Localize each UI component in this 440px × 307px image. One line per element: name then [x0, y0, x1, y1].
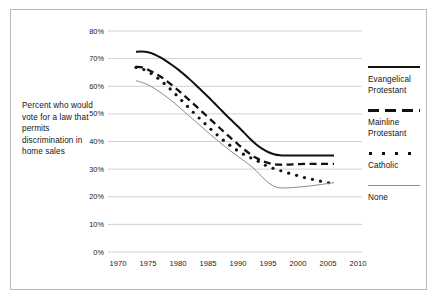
legend-swatch-catholic	[368, 148, 420, 158]
series-line-evangelical-protestant	[136, 51, 334, 155]
series-marker-catholic	[242, 153, 245, 156]
series-marker-catholic	[134, 66, 137, 69]
y-tick-label: 50%	[89, 109, 104, 118]
y-tick-label: 70%	[89, 54, 104, 63]
series-marker-catholic	[149, 72, 152, 75]
series-marker-catholic	[169, 87, 172, 90]
series-line-none	[136, 81, 334, 188]
x-tick-label: 1990	[230, 259, 247, 268]
series-marker-catholic	[228, 144, 231, 147]
chart-figure: Percent who would vote for a law that pe…	[0, 0, 440, 307]
series-marker-catholic	[271, 167, 274, 170]
series-marker-catholic	[319, 180, 322, 183]
y-tick-label: 20%	[89, 192, 104, 201]
chart-legend: Evangelical Protestant Mainline Protesta…	[368, 62, 426, 212]
series-marker-catholic	[257, 160, 260, 163]
x-tick-label: 2000	[290, 259, 307, 268]
series-marker-catholic	[192, 111, 195, 114]
legend-label-catholic: Catholic	[368, 160, 426, 171]
legend-entry-mainline: Mainline Protestant	[368, 105, 426, 139]
series-marker-catholic	[174, 93, 177, 96]
series-marker-catholic	[311, 178, 314, 181]
y-tick-label: 30%	[89, 165, 104, 174]
series-lines	[134, 51, 334, 188]
x-tick-labels: 197019751980198519901995200020052010	[110, 259, 367, 268]
legend-swatch-mainline	[368, 105, 420, 115]
x-tick-label: 1995	[260, 259, 277, 268]
series-marker-catholic	[264, 164, 267, 167]
series-marker-catholic	[222, 139, 225, 142]
series-marker-catholic	[156, 77, 159, 80]
series-marker-catholic	[295, 174, 298, 177]
series-marker-catholic	[186, 105, 189, 108]
series-marker-catholic	[235, 148, 238, 151]
y-tick-label: 0%	[93, 248, 104, 257]
x-tick-label: 2010	[350, 259, 367, 268]
series-marker-catholic	[303, 176, 306, 179]
x-tick-label: 1980	[170, 259, 187, 268]
y-tick-label: 60%	[89, 82, 104, 91]
y-tick-labels: 0%10%20%30%40%50%60%70%80%	[89, 27, 104, 257]
y-tick-label: 40%	[89, 137, 104, 146]
gridlines	[108, 31, 362, 252]
series-marker-catholic	[209, 128, 212, 131]
series-marker-catholic	[163, 82, 166, 85]
legend-entry-none: None	[368, 180, 426, 203]
legend-entry-catholic: Catholic	[368, 148, 426, 171]
x-tick-label: 1975	[140, 259, 157, 268]
x-tick-label: 1970	[110, 259, 127, 268]
legend-label-mainline: Mainline Protestant	[368, 117, 426, 139]
legend-label-evangelical: Evangelical Protestant	[368, 74, 426, 96]
y-tick-label: 80%	[89, 27, 104, 36]
series-marker-catholic	[215, 133, 218, 136]
series-marker-catholic	[142, 68, 145, 71]
series-marker-catholic	[279, 169, 282, 172]
legend-swatch-evangelical	[368, 62, 420, 72]
legend-label-none: None	[368, 192, 426, 203]
legend-entry-evangelical: Evangelical Protestant	[368, 62, 426, 96]
series-marker-catholic	[249, 156, 252, 159]
x-tick-label: 2005	[320, 259, 337, 268]
x-tick-label: 1985	[200, 259, 217, 268]
legend-swatch-none	[368, 180, 420, 190]
series-marker-catholic	[287, 172, 290, 175]
series-marker-catholic	[198, 116, 201, 119]
series-marker-catholic	[180, 99, 183, 102]
series-marker-catholic	[203, 122, 206, 125]
y-tick-label: 10%	[89, 220, 104, 229]
